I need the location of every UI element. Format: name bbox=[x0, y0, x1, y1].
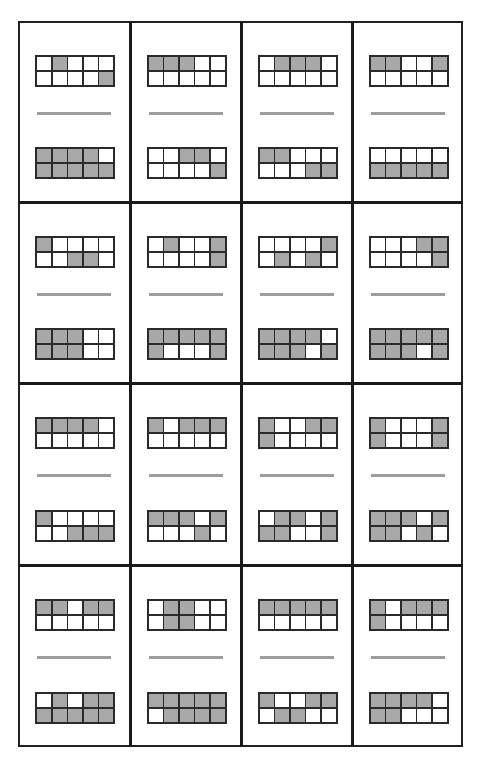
filled-cell bbox=[371, 330, 385, 343]
filled-cell bbox=[99, 72, 113, 85]
empty-cell bbox=[417, 709, 431, 722]
numerator-ten-frame bbox=[258, 55, 338, 87]
empty-cell bbox=[68, 694, 82, 707]
filled-cell bbox=[322, 512, 336, 525]
filled-cell bbox=[84, 601, 98, 614]
filled-cell bbox=[211, 512, 225, 525]
empty-cell bbox=[402, 616, 416, 629]
empty-cell bbox=[53, 434, 67, 447]
empty-cell bbox=[322, 616, 336, 629]
denominator-ten-frame bbox=[369, 692, 449, 724]
filled-cell bbox=[433, 434, 447, 447]
empty-cell bbox=[371, 149, 385, 162]
filled-cell bbox=[53, 57, 67, 70]
empty-cell bbox=[195, 512, 209, 525]
filled-cell bbox=[164, 694, 178, 707]
empty-cell bbox=[402, 238, 416, 251]
filled-cell bbox=[180, 419, 194, 432]
empty-cell bbox=[402, 57, 416, 70]
empty-cell bbox=[371, 253, 385, 266]
empty-cell bbox=[306, 434, 320, 447]
empty-cell bbox=[37, 616, 51, 629]
empty-cell bbox=[68, 72, 82, 85]
filled-cell bbox=[164, 330, 178, 343]
empty-cell bbox=[211, 434, 225, 447]
empty-cell bbox=[211, 527, 225, 540]
filled-cell bbox=[291, 330, 305, 343]
empty-cell bbox=[417, 149, 431, 162]
filled-cell bbox=[68, 419, 82, 432]
filled-cell bbox=[37, 512, 51, 525]
empty-cell bbox=[291, 164, 305, 177]
empty-cell bbox=[306, 72, 320, 85]
empty-cell bbox=[211, 72, 225, 85]
filled-cell bbox=[371, 694, 385, 707]
empty-cell bbox=[149, 601, 163, 614]
empty-cell bbox=[386, 616, 400, 629]
filled-cell bbox=[99, 527, 113, 540]
filled-cell bbox=[99, 694, 113, 707]
fraction-card bbox=[18, 565, 130, 747]
denominator-ten-frame bbox=[147, 328, 227, 360]
empty-cell bbox=[53, 616, 67, 629]
filled-cell bbox=[402, 601, 416, 614]
empty-cell bbox=[291, 72, 305, 85]
filled-cell bbox=[322, 527, 336, 540]
numerator-ten-frame bbox=[35, 55, 115, 87]
filled-cell bbox=[322, 419, 336, 432]
filled-cell bbox=[386, 345, 400, 358]
empty-cell bbox=[275, 434, 289, 447]
denominator-ten-frame bbox=[369, 328, 449, 360]
empty-cell bbox=[53, 253, 67, 266]
filled-cell bbox=[211, 709, 225, 722]
empty-cell bbox=[306, 512, 320, 525]
filled-cell bbox=[211, 694, 225, 707]
filled-cell bbox=[53, 694, 67, 707]
numerator-ten-frame bbox=[35, 236, 115, 268]
empty-cell bbox=[417, 616, 431, 629]
empty-cell bbox=[84, 345, 98, 358]
filled-cell bbox=[275, 149, 289, 162]
empty-cell bbox=[180, 253, 194, 266]
numerator-ten-frame bbox=[147, 236, 227, 268]
empty-cell bbox=[149, 238, 163, 251]
filled-cell bbox=[211, 330, 225, 343]
filled-cell bbox=[417, 601, 431, 614]
empty-cell bbox=[68, 238, 82, 251]
filled-cell bbox=[275, 345, 289, 358]
empty-cell bbox=[402, 419, 416, 432]
filled-cell bbox=[275, 57, 289, 70]
filled-cell bbox=[371, 527, 385, 540]
fraction-card bbox=[130, 565, 241, 747]
filled-cell bbox=[275, 253, 289, 266]
empty-cell bbox=[417, 434, 431, 447]
empty-cell bbox=[275, 164, 289, 177]
empty-cell bbox=[84, 57, 98, 70]
filled-cell bbox=[149, 57, 163, 70]
filled-cell bbox=[306, 694, 320, 707]
filled-cell bbox=[306, 419, 320, 432]
empty-cell bbox=[275, 419, 289, 432]
empty-cell bbox=[211, 149, 225, 162]
empty-cell bbox=[291, 253, 305, 266]
empty-cell bbox=[402, 149, 416, 162]
filled-cell bbox=[37, 330, 51, 343]
numerator-ten-frame bbox=[369, 236, 449, 268]
filled-cell bbox=[386, 330, 400, 343]
filled-cell bbox=[164, 709, 178, 722]
fraction-bar bbox=[37, 112, 111, 115]
filled-cell bbox=[53, 601, 67, 614]
empty-cell bbox=[99, 512, 113, 525]
empty-cell bbox=[68, 616, 82, 629]
filled-cell bbox=[260, 601, 274, 614]
empty-cell bbox=[291, 238, 305, 251]
filled-cell bbox=[180, 616, 194, 629]
empty-cell bbox=[306, 527, 320, 540]
denominator-ten-frame bbox=[35, 328, 115, 360]
filled-cell bbox=[291, 345, 305, 358]
filled-cell bbox=[164, 512, 178, 525]
filled-cell bbox=[306, 253, 320, 266]
filled-cell bbox=[260, 527, 274, 540]
filled-cell bbox=[37, 149, 51, 162]
filled-cell bbox=[322, 345, 336, 358]
